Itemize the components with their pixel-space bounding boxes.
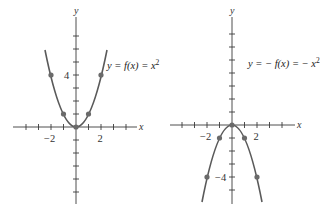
- right-tick-label-neg4: −4: [215, 172, 227, 183]
- point-origin: [73, 124, 78, 129]
- left-graph: y x −2 2 4 y = f(x) = x2: [13, 5, 160, 204]
- point-neg1-1: [61, 111, 66, 116]
- right-graph: y x −2 2 −4 y = − f(x) = − x2: [170, 5, 320, 204]
- right-tick-label-neg2: −2: [200, 131, 211, 142]
- point-1-1: [86, 111, 91, 116]
- left-tick-label-neg2: −2: [44, 133, 55, 144]
- point-neg2-neg4: [204, 174, 209, 179]
- right-y-axis-label: y: [229, 5, 235, 16]
- point-2-neg4: [254, 174, 259, 179]
- left-tick-label-2: 2: [98, 133, 103, 144]
- left-y-axis-label: y: [73, 5, 79, 16]
- graphs-figure: y x −2 2 4 y = f(x) = x2: [0, 0, 329, 215]
- point-neg2-4: [48, 72, 53, 77]
- point-neg1-neg1: [217, 135, 222, 140]
- right-x-axis-label: x: [296, 119, 302, 130]
- point-origin: [229, 122, 234, 127]
- point-2-4: [98, 72, 103, 77]
- right-tick-label-2: 2: [254, 131, 259, 142]
- left-tick-label-4: 4: [64, 70, 70, 81]
- right-equation-label: y = − f(x) = − x2: [247, 56, 320, 70]
- point-1-neg1: [242, 135, 247, 140]
- left-x-axis-label: x: [138, 121, 144, 132]
- left-equation-label: y = f(x) = x2: [106, 58, 160, 72]
